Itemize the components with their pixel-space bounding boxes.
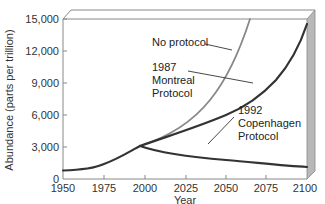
montreal-leader-line	[188, 71, 253, 83]
x-tick-label: 2100	[293, 182, 317, 194]
x-tick-label: 2025	[174, 182, 198, 194]
y-axis-title: Abundance (parts per trillion)	[3, 29, 15, 170]
x-axis-title: Year	[174, 194, 197, 204]
x-tick-label: 2075	[254, 182, 278, 194]
x-tick-label: 1975	[92, 182, 116, 194]
no-protocol-leader-line	[205, 44, 232, 50]
y-tick-label: 15,000	[25, 13, 59, 25]
y-tick-label: 9,000	[31, 77, 59, 89]
chart: 15,000 12,000 9,000 6,000 3,000 0 1950 1…	[0, 0, 325, 204]
montreal-label-line3: Protocol	[152, 87, 192, 99]
x-tick-label: 2050	[214, 182, 238, 194]
copenhagen-label-line1: 1992	[238, 104, 262, 116]
y-tick-label: 6,000	[31, 109, 59, 121]
no-protocol-label: No protocol	[152, 36, 208, 48]
x-tick-label: 1950	[51, 182, 75, 194]
copenhagen-label-line2: Copenhagen	[238, 117, 301, 129]
x-tick-label: 2000	[133, 182, 157, 194]
series-historical	[63, 146, 140, 171]
y-tick-label: 12,000	[25, 45, 59, 57]
y-axis	[63, 19, 67, 147]
x-axis	[104, 175, 266, 179]
montreal-label-line2: Montreal	[152, 74, 195, 86]
y-tick-label: 3,000	[31, 141, 59, 153]
copenhagen-label-line3: Protocol	[238, 130, 278, 142]
series-copenhagen-protocol	[140, 146, 307, 167]
right-side-panel	[307, 10, 315, 179]
montreal-label-line1: 1987	[152, 61, 176, 73]
top-back-edge	[63, 10, 315, 19]
